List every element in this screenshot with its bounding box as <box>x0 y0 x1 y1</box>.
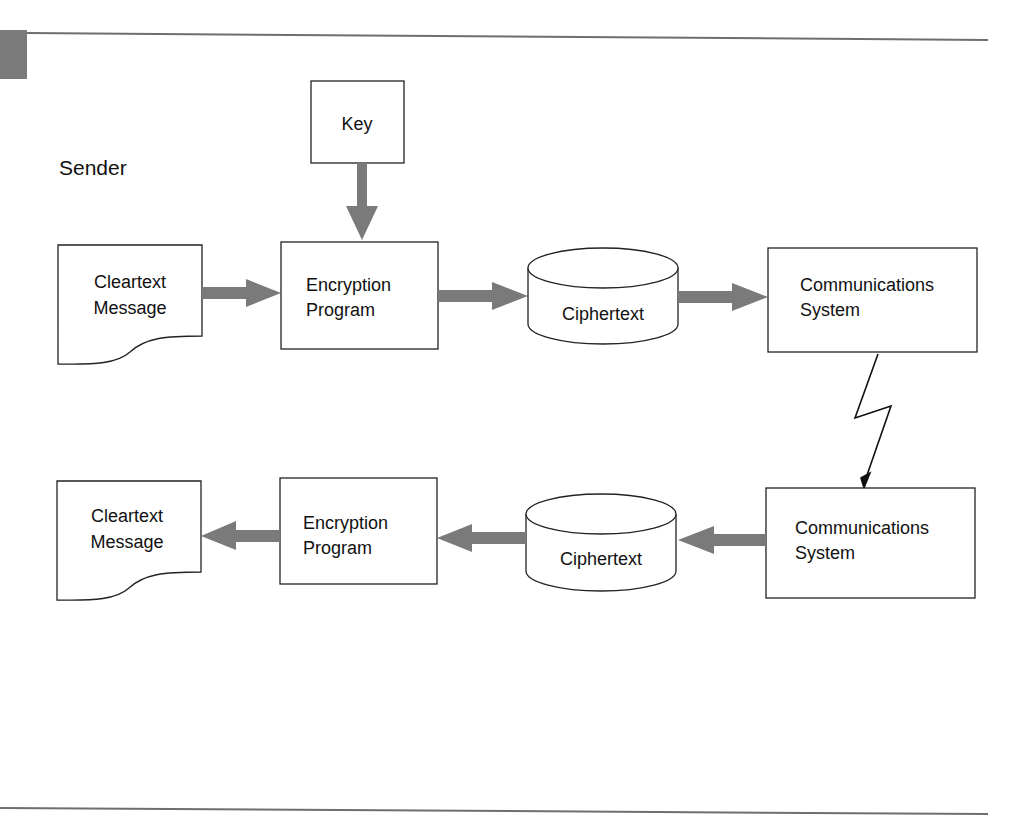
sender-key-label: Key <box>341 114 372 134</box>
encryption-diagram: Sender Key Cleartext Message Encryption … <box>0 0 1025 819</box>
receiver-comms-line2: System <box>795 543 855 563</box>
sender-arrow-icon-2 <box>438 282 528 310</box>
sender-arrow-icon-1 <box>202 279 281 307</box>
sender-ciphertext-label: Ciphertext <box>562 304 644 324</box>
receiver-cleartext-line2: Message <box>90 532 163 552</box>
receiver-communications-system-box: Communications System <box>766 488 975 598</box>
sender-program-line1: Encryption <box>306 275 391 295</box>
receiver-arrow-icon-2 <box>437 524 526 552</box>
sender-key-box: Key <box>311 81 404 163</box>
sender-program-line2: Program <box>306 300 375 320</box>
sender-cleartext-document: Cleartext Message <box>58 245 202 364</box>
receiver-arrow-icon-1 <box>678 526 766 554</box>
sender-encryption-program-box: Encryption Program <box>281 242 438 349</box>
transmission-lightning-icon <box>855 354 891 488</box>
top-rule <box>27 33 988 40</box>
sender-comms-line1: Communications <box>800 275 934 295</box>
receiver-cleartext-line1: Cleartext <box>91 506 163 526</box>
receiver-ciphertext-cylinder: Ciphertext <box>526 494 676 591</box>
receiver-comms-line1: Communications <box>795 518 929 538</box>
sender-cleartext-line2: Message <box>93 298 166 318</box>
sender-comms-line2: System <box>800 300 860 320</box>
sender-cleartext-line1: Cleartext <box>94 272 166 292</box>
corner-tab <box>0 30 27 79</box>
sender-ciphertext-cylinder: Ciphertext <box>528 248 678 344</box>
bottom-rule <box>0 808 988 814</box>
sender-label: Sender <box>59 156 127 179</box>
receiver-cleartext-document: Cleartext Message <box>57 481 201 600</box>
receiver-program-line1: Encryption <box>303 513 388 533</box>
receiver-ciphertext-label: Ciphertext <box>560 549 642 569</box>
receiver-arrow-icon-3 <box>201 521 280 550</box>
sender-arrow-icon-3 <box>678 283 768 311</box>
receiver-program-line2: Program <box>303 538 372 558</box>
sender-key-arrow-icon <box>346 163 378 240</box>
sender-communications-system-box: Communications System <box>768 248 977 352</box>
receiver-encryption-program-box: Encryption Program <box>280 478 437 584</box>
